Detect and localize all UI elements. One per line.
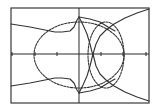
lower-left-curve-curve [11, 78, 79, 93]
plotted-curves [11, 9, 149, 101]
graph-screen [0, 0, 157, 110]
lower-right-branch-curve [93, 54, 149, 101]
upper-right-branch-curve [93, 9, 149, 54]
graph-plot [0, 0, 157, 110]
upper-left-curve-curve [11, 17, 79, 32]
